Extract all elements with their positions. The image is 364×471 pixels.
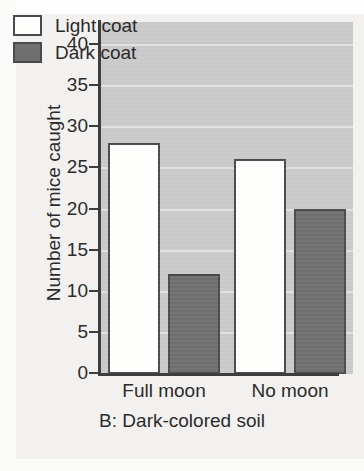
chart-caption: B: Dark-colored soil (0, 410, 364, 432)
gridline (101, 44, 353, 46)
y-axis-tick (89, 372, 99, 374)
y-axis-tick (89, 125, 99, 127)
gridline (101, 85, 353, 87)
legend-label-light-coat: Light coat (55, 16, 137, 35)
legend-item-dark-coat: Dark coat (13, 39, 137, 66)
bar (294, 209, 346, 375)
plot-area (101, 22, 353, 374)
y-axis-line (98, 20, 101, 376)
legend-swatch-light-coat (13, 15, 42, 36)
y-axis-tick (89, 290, 99, 292)
bar (108, 143, 160, 374)
legend: Light coat Dark coat (13, 12, 137, 66)
legend-swatch-dark-coat (13, 42, 42, 63)
x-axis-tick-label: Full moon (99, 380, 229, 402)
y-axis-tick (89, 166, 99, 168)
gridline (101, 126, 353, 128)
bar (234, 159, 286, 374)
bar (168, 274, 220, 374)
y-axis-title: Number of mice caught (43, 53, 65, 353)
page-left-margin (0, 0, 16, 471)
bar-chart-figure: 0510152025303540 Number of mice caught L… (0, 0, 364, 471)
x-axis-tick-label: No moon (225, 380, 355, 402)
x-axis-line (98, 373, 339, 376)
y-axis-tick (89, 84, 99, 86)
y-axis-tick-label: 0 (52, 363, 88, 382)
y-axis-tick (89, 208, 99, 210)
y-axis-tick (89, 331, 99, 333)
y-axis-tick (89, 249, 99, 251)
legend-item-light-coat: Light coat (13, 12, 137, 39)
legend-label-dark-coat: Dark coat (55, 43, 136, 62)
